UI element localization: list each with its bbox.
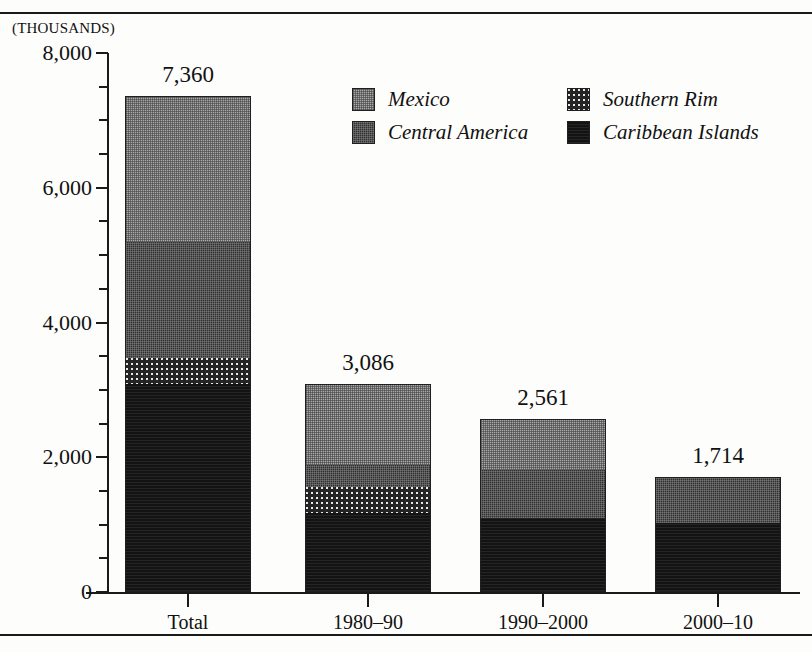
- x-axis-tick-label: 2000–10: [615, 612, 812, 632]
- stacked-bar: [305, 384, 431, 592]
- legend-item-southern-rim: Southern Rim: [567, 88, 782, 111]
- y-axis-minor-tick: [99, 389, 108, 391]
- central-america-swatch-icon: [352, 121, 375, 144]
- legend-label: Mexico: [388, 89, 450, 110]
- legend-row: Mexico Southern Rim: [352, 88, 782, 111]
- y-axis-tick-label-text: 8,000: [8, 42, 92, 64]
- bar-value-label: 2,561: [480, 386, 606, 409]
- chart-legend: Mexico Southern Rim Central America Cari…: [352, 88, 782, 154]
- legend-item-caribbean-islands: Caribbean Islands: [567, 121, 782, 144]
- x-axis-tick: [367, 594, 369, 607]
- bar-segment-central: [656, 478, 780, 524]
- stacked-bar: [655, 477, 781, 592]
- y-axis-minor-tick: [99, 557, 108, 559]
- bar-segment-caribbean: [126, 384, 250, 591]
- y-axis-minor-tick: [99, 254, 108, 256]
- x-axis-tick: [717, 594, 719, 607]
- y-axis-minor-tick: [99, 423, 108, 425]
- y-axis-tick-label-text: 2,000: [8, 446, 92, 468]
- bar-value-label: 7,360: [125, 63, 251, 86]
- x-axis-tick-label: Total: [85, 612, 291, 632]
- caribbean-islands-swatch-icon: [567, 121, 590, 144]
- y-axis-tick-label-text: 6,000: [8, 177, 92, 199]
- y-axis-minor-tick: [99, 220, 108, 222]
- y-axis-minor-tick: [99, 355, 108, 357]
- y-axis-line: [107, 53, 109, 594]
- bar-value-label: 3,086: [305, 351, 431, 374]
- stacked-bar: [480, 419, 606, 592]
- bar-segment-southern: [126, 358, 250, 385]
- y-axis-minor-tick: [99, 119, 108, 121]
- y-axis-major-tick: [96, 456, 108, 458]
- stacked-bar: [125, 96, 251, 592]
- bar-segment-caribbean: [481, 518, 605, 591]
- bar-segment-central: [126, 242, 250, 358]
- bar-value-label: 1,714: [655, 444, 781, 467]
- legend-item-central-america: Central America: [352, 121, 567, 144]
- legend-item-mexico: Mexico: [352, 88, 567, 111]
- legend-label: Caribbean Islands: [603, 122, 759, 143]
- y-axis-major-tick: [96, 187, 108, 189]
- y-axis-minor-tick: [99, 288, 108, 290]
- bar-segment-caribbean: [656, 523, 780, 591]
- bar-segment-mexico: [126, 97, 250, 242]
- bar-segment-mexico: [306, 385, 430, 464]
- y-axis-minor-tick: [99, 153, 108, 155]
- legend-label: Central America: [388, 122, 528, 143]
- legend-label: Southern Rim: [603, 89, 718, 110]
- mexico-swatch-icon: [352, 88, 375, 111]
- x-axis-tick: [187, 594, 189, 607]
- y-axis-major-tick: [96, 322, 108, 324]
- y-axis-minor-tick: [99, 86, 108, 88]
- bar-segment-central: [306, 465, 430, 487]
- bar-segment-mexico: [481, 420, 605, 470]
- y-axis-tick-label-text: 4,000: [8, 312, 92, 334]
- southern-rim-swatch-icon: [567, 88, 590, 111]
- legend-row: Central America Caribbean Islands: [352, 121, 782, 144]
- bar-segment-central: [481, 470, 605, 518]
- bar-segment-caribbean: [306, 513, 430, 591]
- x-axis-tick: [542, 594, 544, 607]
- y-axis-major-tick: [96, 591, 108, 593]
- y-axis-minor-tick: [99, 524, 108, 526]
- x-axis-line: [86, 592, 800, 594]
- bar-segment-southern: [306, 487, 430, 513]
- y-axis-minor-tick: [99, 490, 108, 492]
- y-axis-major-tick: [96, 52, 108, 54]
- y-axis-tick-label-text: 0: [8, 581, 92, 603]
